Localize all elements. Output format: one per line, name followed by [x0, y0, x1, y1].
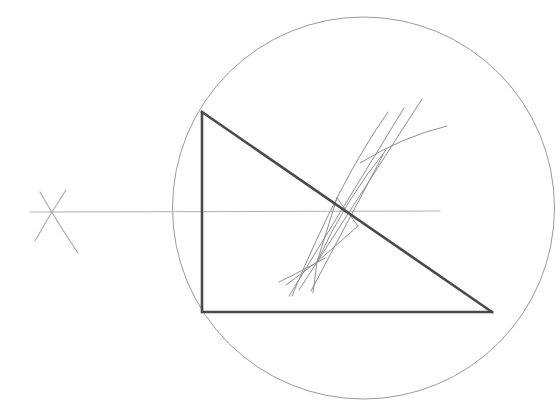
canvas-background [0, 0, 560, 413]
geometry-figure [0, 0, 560, 413]
drawing-canvas: Right triangle inscribed in circle with … [0, 0, 560, 413]
